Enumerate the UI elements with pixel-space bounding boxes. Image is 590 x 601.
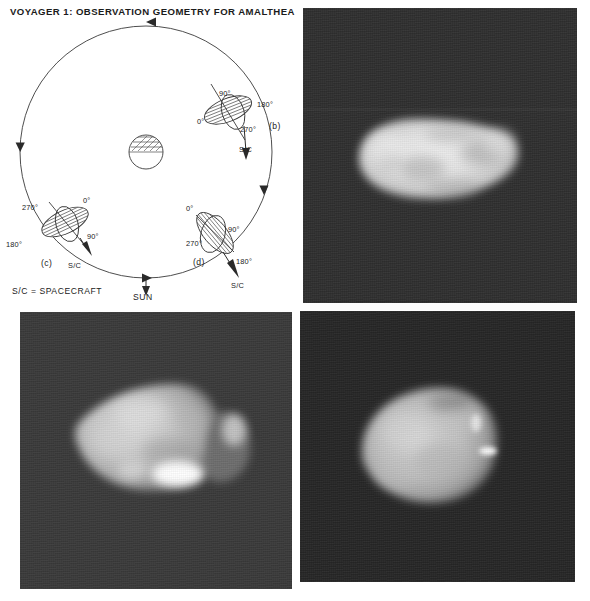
spacecraft-legend: S/C = SPACECRAFT	[12, 286, 102, 296]
position-c-angle-top: 0°	[83, 196, 90, 205]
position-b-angle-right: 180°	[257, 100, 273, 109]
orbit-arrow-bottom	[142, 274, 152, 283]
position-b-sc-label: S/C	[239, 145, 252, 154]
amalthea-image-c	[20, 312, 292, 589]
position-c-sc-label: S/C	[68, 261, 81, 270]
position-d-angle-right: 90°	[228, 225, 240, 234]
position-c-angle-bottom: 180°	[6, 240, 22, 249]
position-d-angle-top: 0°	[186, 204, 193, 213]
figure-title: VOYAGER 1: OBSERVATION GEOMETRY FOR AMAL…	[10, 6, 295, 17]
figure-root: VOYAGER 1: OBSERVATION GEOMETRY FOR AMAL…	[0, 0, 590, 601]
film-grain-texture	[300, 311, 575, 582]
central-body	[129, 133, 163, 169]
position-b-angle-left: 0°	[197, 117, 204, 126]
film-grain-texture	[20, 312, 292, 589]
orbit-arrow-top	[146, 18, 156, 27]
film-grain-texture	[303, 8, 577, 303]
position-c-panel-label: (c)	[41, 258, 52, 268]
position-c-angle-right: 90°	[87, 232, 99, 241]
position-d-sc-label: S/C	[231, 281, 244, 290]
sun-label: SUN	[133, 292, 153, 302]
observation-geometry-diagram: VOYAGER 1: OBSERVATION GEOMETRY FOR AMAL…	[0, 0, 300, 303]
position-b-angle-top: 90°	[219, 89, 231, 98]
orbit-arrow-left	[16, 143, 25, 153]
position-d-panel-label: (d)	[193, 257, 205, 267]
position-d-angle-left: 270°	[186, 239, 202, 248]
position-b-angle-bottom: 270°	[240, 125, 256, 134]
position-d-angle-bottom: 180°	[236, 257, 252, 266]
orbit-arrow-right	[259, 186, 268, 196]
position-b-panel-label: (b)	[269, 121, 281, 131]
amalthea-image-b	[303, 8, 577, 303]
position-c-angle-left: 270°	[22, 203, 38, 212]
amalthea-image-d	[300, 311, 575, 582]
position-c-graphic	[37, 201, 94, 256]
